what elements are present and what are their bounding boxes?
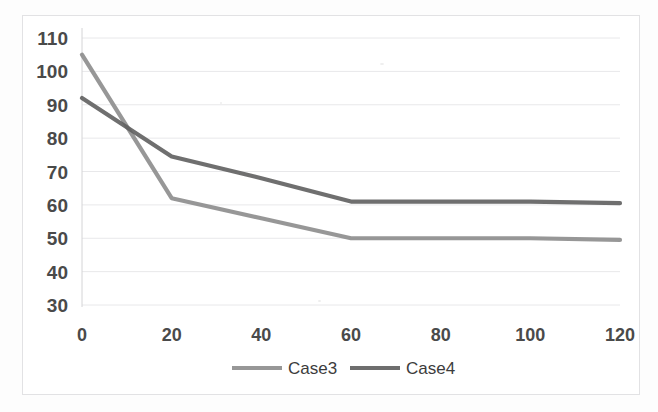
x-tick-label: 100 xyxy=(515,325,545,345)
y-tick-label: 60 xyxy=(47,195,68,216)
y-tick-label: 100 xyxy=(36,61,68,82)
series-line-case3 xyxy=(82,55,620,240)
x-tick-label: 0 xyxy=(77,325,87,345)
y-tick-label: 30 xyxy=(47,295,68,316)
y-tick-label: 90 xyxy=(47,95,68,116)
x-tick-label: 60 xyxy=(341,325,361,345)
y-tick-label: 50 xyxy=(47,228,68,249)
x-axis-tick-labels: 020406080100120 xyxy=(77,325,635,345)
scan-artifact xyxy=(220,102,222,104)
x-tick-label: 80 xyxy=(431,325,451,345)
y-tick-label: 80 xyxy=(47,128,68,149)
y-tick-label: 40 xyxy=(47,262,68,283)
gridline-group xyxy=(82,38,620,305)
scan-artifact xyxy=(380,63,384,65)
x-tick-label: 40 xyxy=(251,325,271,345)
chart-plot-area: 11010090807060504030 020406080100120 Cas… xyxy=(0,0,658,412)
line-chart-figure: 11010090807060504030 020406080100120 Cas… xyxy=(0,0,658,412)
x-tick-label: 20 xyxy=(162,325,182,345)
legend-label-case4: Case4 xyxy=(406,359,455,378)
y-tick-label: 70 xyxy=(47,162,68,183)
scan-artifact xyxy=(318,300,321,302)
data-series-group xyxy=(82,55,620,240)
x-tick-label: 120 xyxy=(605,325,635,345)
legend-label-case3: Case3 xyxy=(288,359,337,378)
chart-legend: Case3Case4 xyxy=(232,359,455,378)
y-axis-tick-labels: 11010090807060504030 xyxy=(36,28,68,316)
y-tick-label: 110 xyxy=(37,28,68,49)
